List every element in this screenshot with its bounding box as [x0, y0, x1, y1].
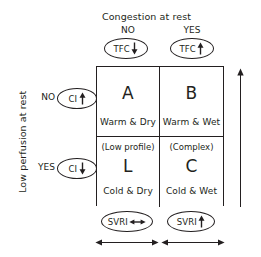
- tfc-yes-marker: TFC: [170, 38, 214, 59]
- quadrant-c-paren: (Complex): [170, 142, 214, 153]
- perfusion-axis-title: Low perfusion at rest: [18, 78, 28, 206]
- quadrant-b-subtitle: Warm & Wet: [163, 117, 220, 127]
- arrow-up-icon: [198, 215, 205, 228]
- quadrant-a[interactable]: A Warm & Dry: [97, 67, 160, 137]
- column-header-no: NO: [96, 26, 160, 35]
- arrow-down-icon: [79, 162, 86, 175]
- svri-dry-marker: SVRI: [101, 211, 153, 232]
- quadrant-a-subtitle: Warm & Dry: [100, 117, 156, 127]
- profile-matrix: A Warm & Dry B Warm & Wet (Low profile) …: [96, 66, 224, 206]
- ci-no-label: CI: [68, 94, 77, 104]
- ci-no-marker: CI: [57, 88, 97, 109]
- quadrant-b-letter: B: [186, 83, 198, 103]
- svri-dry-label: SVRI: [108, 217, 128, 227]
- row-header-yes: YES: [28, 163, 55, 172]
- congestion-axis-title: Congestion at rest: [0, 12, 261, 22]
- arrow-up-icon: [197, 42, 204, 55]
- tfc-no-marker: TFC: [104, 38, 148, 59]
- bottom-axis-arrow-right: [161, 238, 225, 247]
- quadrant-b[interactable]: B Warm & Wet: [160, 67, 223, 137]
- svri-wet-marker: SVRI: [167, 211, 215, 232]
- bottom-axis-arrow-left: [95, 238, 159, 247]
- arrow-down-icon: [131, 42, 138, 55]
- quadrant-l-letter: L: [123, 156, 133, 176]
- arrow-up-icon: [79, 92, 86, 105]
- row-header-no: NO: [33, 93, 55, 102]
- ci-yes-marker: CI: [57, 158, 97, 179]
- quadrant-c-letter: C: [185, 156, 197, 176]
- quadrant-c-subtitle: Cold & Wet: [166, 186, 217, 196]
- quadrant-a-letter: A: [122, 83, 134, 103]
- quadrant-l-subtitle: Cold & Dry: [103, 186, 153, 196]
- tfc-no-label: TFC: [114, 44, 130, 54]
- column-header-yes: YES: [160, 26, 224, 35]
- tfc-yes-label: TFC: [180, 44, 196, 54]
- quadrant-c[interactable]: (Complex) C Cold & Wet: [160, 137, 223, 207]
- right-axis-arrow: [236, 68, 245, 208]
- arrow-left-right-icon: [129, 218, 146, 226]
- svri-wet-label: SVRI: [177, 217, 197, 227]
- quadrant-l-paren: (Low profile): [102, 142, 155, 153]
- hemodynamic-profiles-diagram: Congestion at rest NO YES TFC TFC Low pe…: [0, 0, 261, 257]
- ci-yes-label: CI: [68, 164, 77, 174]
- quadrant-l[interactable]: (Low profile) L Cold & Dry: [97, 137, 160, 207]
